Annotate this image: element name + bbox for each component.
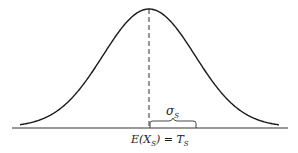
- sigma-label: σS: [166, 104, 179, 120]
- normal-distribution-diagram: σS E(XS) = TS: [0, 0, 298, 153]
- mean-label: E(XS) = TS: [131, 133, 189, 148]
- diagram-canvas: [0, 0, 298, 153]
